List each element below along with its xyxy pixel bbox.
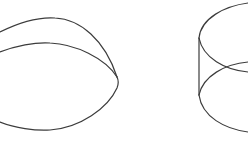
cylinder-bottom-ellipse-front <box>199 95 248 132</box>
cylinder-shape <box>199 3 248 132</box>
cylinder-bottom-ellipse-back <box>199 62 248 95</box>
hemisphere-dome-arc <box>0 18 117 77</box>
cylinder-top-ellipse-front <box>199 38 248 72</box>
hemisphere-rim-back <box>0 43 117 77</box>
hemisphere-shape <box>0 18 118 130</box>
figure-canvas <box>0 0 248 142</box>
cylinder-top-ellipse-back <box>199 3 248 38</box>
hemisphere-rim-front <box>0 77 118 130</box>
